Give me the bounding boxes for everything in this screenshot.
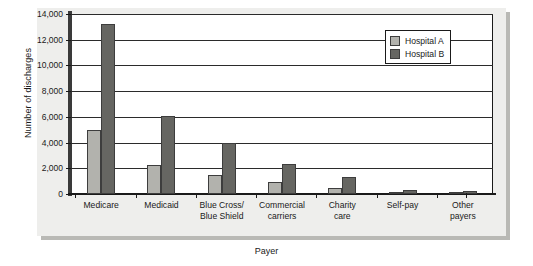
- x-category-label: Blue Cross/ Blue Shield: [199, 200, 243, 221]
- legend-item-hospital-a: Hospital A: [390, 34, 444, 47]
- x-tick-mark: [75, 193, 76, 198]
- x-category-label: Self-pay: [387, 200, 419, 211]
- y-tick-label: 12,000: [0, 35, 63, 45]
- x-tick-mark: [196, 193, 197, 198]
- bar-hospital-b-0: [101, 24, 115, 194]
- bar-hospital-b-5: [403, 190, 417, 194]
- x-category-label: Other payers: [450, 200, 476, 221]
- bar-hospital-a-2: [208, 175, 222, 194]
- bar-hospital-a-5: [389, 192, 403, 194]
- x-category-label: Medicaid: [144, 200, 178, 211]
- x-category-label: Commercial carriers: [259, 200, 305, 221]
- x-tick-mark: [437, 193, 438, 198]
- legend-label-hospital-a: Hospital A: [405, 36, 444, 46]
- y-tick-label: 6,000: [0, 112, 63, 122]
- x-category-label: Charity care: [329, 200, 356, 221]
- legend-swatch-hospital-b: [390, 49, 400, 59]
- x-tick-mark: [377, 193, 378, 198]
- legend-swatch-hospital-a: [390, 36, 400, 46]
- y-tick-label: 2,000: [0, 163, 63, 173]
- chart-legend: Hospital A Hospital B: [385, 30, 451, 64]
- bar-hospital-b-3: [282, 164, 296, 194]
- bar-hospital-a-6: [449, 192, 463, 194]
- x-tick-mark: [316, 193, 317, 198]
- y-tick-mark: [66, 194, 71, 195]
- legend-label-hospital-b: Hospital B: [405, 49, 444, 59]
- y-tick-label: 4,000: [0, 138, 63, 148]
- bar-chart-figure: Number of discharges 02,0004,0006,0008,0…: [0, 0, 533, 266]
- bar-hospital-b-1: [161, 116, 175, 194]
- x-tick-mark: [256, 193, 257, 198]
- bar-hospital-b-2: [222, 143, 236, 194]
- x-tick-mark: [466, 193, 467, 198]
- x-category-label: Medicare: [83, 200, 118, 211]
- y-tick-label: 10,000: [0, 60, 63, 70]
- y-tick-label: 14,000: [0, 9, 63, 19]
- y-tick-label: 8,000: [0, 86, 63, 96]
- y-tick-label: 0: [0, 189, 63, 199]
- bar-hospital-a-4: [328, 188, 342, 194]
- x-tick-mark: [136, 193, 137, 198]
- bar-hospital-a-1: [147, 165, 161, 194]
- bar-hospital-a-3: [268, 182, 282, 194]
- bar-hospital-b-4: [342, 177, 356, 194]
- bar-hospital-a-0: [87, 130, 101, 194]
- legend-item-hospital-b: Hospital B: [390, 47, 444, 60]
- x-axis-title: Payer: [0, 246, 533, 256]
